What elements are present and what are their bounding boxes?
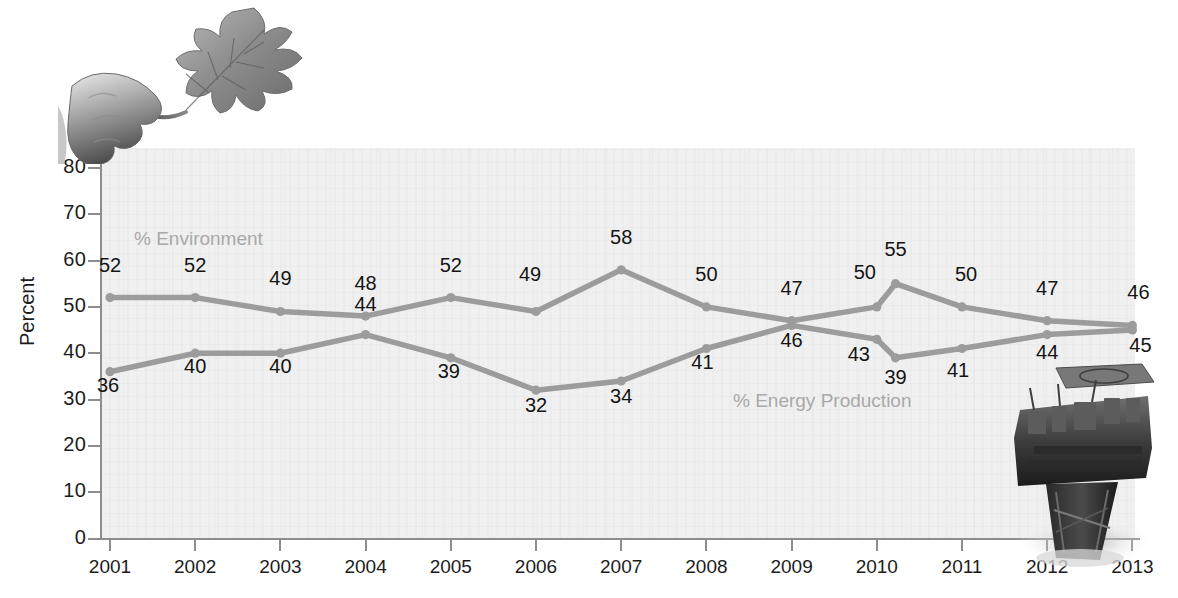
data-point-value-label: 58	[610, 226, 632, 249]
data-point-value-label: 55	[884, 238, 906, 261]
x-axis-tick	[705, 540, 707, 551]
x-axis-tick-label: 2001	[89, 556, 131, 578]
data-point-value-label: 52	[440, 254, 462, 277]
y-axis-tick	[88, 213, 100, 215]
data-point-value-label: 50	[854, 261, 876, 284]
y-axis-tick	[88, 167, 100, 169]
data-point-value-label: 32	[525, 394, 547, 417]
x-axis-tick-label: 2010	[856, 556, 898, 578]
y-axis-tick	[88, 491, 100, 493]
x-axis-tick-label: 2007	[600, 556, 642, 578]
data-point-value-label: 49	[519, 263, 541, 286]
x-axis-tick	[450, 540, 452, 551]
data-point-value-label: 49	[269, 267, 291, 290]
data-point-value-label: 43	[848, 343, 870, 366]
x-axis-tick	[620, 540, 622, 551]
x-axis-tick-label: 2006	[515, 556, 557, 578]
x-axis-tick	[109, 540, 111, 551]
x-axis-tick-label: 2004	[344, 556, 386, 578]
data-point-value-label: 39	[884, 366, 906, 389]
data-point-value-label: 40	[269, 355, 291, 378]
data-point-value-label: 34	[610, 385, 632, 408]
x-axis-tick-label: 2008	[685, 556, 727, 578]
data-point-value-label: 36	[97, 374, 119, 397]
data-point-value-label: 47	[1036, 277, 1058, 300]
y-axis-tick	[88, 538, 100, 540]
data-point-value-label: 52	[184, 254, 206, 277]
x-axis-tick	[961, 540, 963, 551]
x-axis-tick	[365, 540, 367, 551]
data-point-value-label: 41	[691, 351, 713, 374]
chart-root: Percent 01020304050607080 20012002200320…	[0, 0, 1178, 598]
x-axis-tick	[194, 540, 196, 551]
x-axis-tick-label: 2003	[259, 556, 301, 578]
series-label-energy-production: % Energy Production	[733, 390, 912, 412]
data-point-value-label: 47	[780, 277, 802, 300]
x-axis-tick-label: 2011	[942, 556, 983, 578]
y-axis-line	[100, 150, 102, 540]
data-point-value-label: 40	[184, 355, 206, 378]
y-axis-tick	[88, 352, 100, 354]
x-axis-tick	[791, 540, 793, 551]
offshore-oil-rig-photo	[1000, 352, 1165, 567]
y-axis-tick	[88, 445, 100, 447]
data-point-value-label: 50	[955, 263, 977, 286]
plot-background	[100, 148, 1135, 540]
x-axis-tick-label: 2002	[174, 556, 216, 578]
data-point-value-label: 39	[438, 360, 460, 383]
data-point-value-label: 46	[780, 329, 802, 352]
data-point-value-label: 41	[947, 359, 969, 382]
data-point-value-label: 52	[99, 254, 121, 277]
data-point-value-label: 50	[695, 263, 717, 286]
data-point-value-label: 46	[1127, 281, 1149, 304]
x-axis-tick-label: 2009	[770, 556, 812, 578]
y-axis-tick	[88, 399, 100, 401]
x-axis-tick	[279, 540, 281, 551]
hand-holding-leaf-photo	[58, 0, 358, 164]
x-axis-tick	[535, 540, 537, 551]
series-label-environment: % Environment	[134, 228, 263, 250]
y-axis-tick	[88, 306, 100, 308]
data-point-value-label: 44	[354, 293, 376, 316]
x-axis-tick	[876, 540, 878, 551]
x-axis-tick-label: 2005	[430, 556, 472, 578]
y-axis-title: Percent	[16, 257, 39, 367]
